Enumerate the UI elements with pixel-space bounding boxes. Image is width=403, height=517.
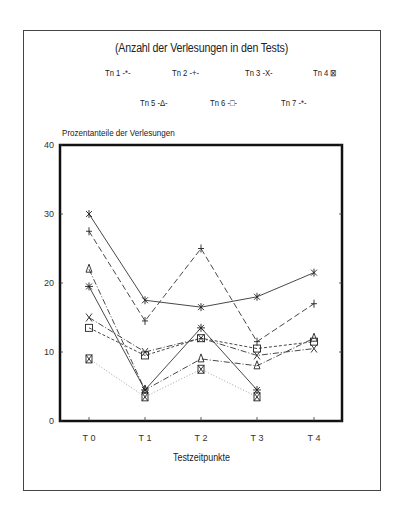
x-tick-label: T 4: [308, 433, 321, 443]
x-tick-label: T 1: [139, 433, 152, 443]
series-lines: [85, 210, 318, 401]
x-tick-label: T 2: [195, 433, 208, 443]
axes: 010203040T 0T 1T 2T 3T 4: [44, 140, 342, 443]
y-tick-label: 20: [44, 278, 54, 288]
asterisk-plus-marker-icon: [141, 386, 149, 394]
triangle-marker-icon: [86, 264, 92, 272]
asterisk-marker-icon: [311, 269, 317, 277]
series-line: [89, 359, 257, 397]
x-marker-icon: [311, 345, 317, 353]
boxed-x-marker-icon: [254, 393, 260, 401]
triangle-marker-icon: [198, 354, 204, 362]
asterisk-plus-marker-icon: [197, 324, 205, 332]
plus-marker-icon: [311, 300, 317, 308]
x-marker-icon: [86, 314, 92, 322]
series-line: [89, 214, 314, 307]
asterisk-plus-marker-icon: [85, 282, 93, 290]
boxed-x-marker-icon: [142, 393, 148, 401]
x-tick-label: T 0: [83, 433, 96, 443]
x-tick-label: T 3: [251, 433, 264, 443]
asterisk-plus-marker-icon: [253, 386, 261, 394]
boxed-x-marker-icon: [86, 355, 92, 363]
series-line: [89, 231, 314, 341]
boxed-x-marker-icon: [198, 365, 204, 373]
y-tick-label: 10: [44, 347, 54, 357]
y-tick-label: 0: [49, 416, 54, 426]
plot-box: [60, 145, 342, 421]
triangle-marker-icon: [311, 333, 317, 341]
plot-area: 010203040T 0T 1T 2T 3T 4: [0, 0, 403, 517]
y-tick-label: 40: [44, 140, 54, 150]
y-tick-label: 30: [44, 209, 54, 219]
